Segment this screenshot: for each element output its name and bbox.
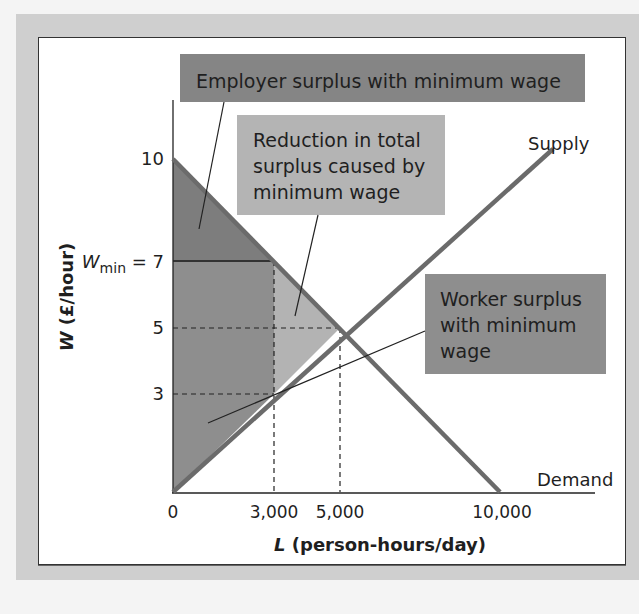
- x-tick-3000: 3,000: [250, 502, 299, 522]
- worker-label-line2: with minimum: [440, 314, 577, 336]
- worker-label-line1: Worker surplus: [440, 288, 582, 310]
- demand-label: Demand: [537, 469, 613, 490]
- y-tick-wmin: Wmin = 7: [82, 251, 164, 276]
- y-tick-5: 5: [153, 317, 164, 338]
- x-tick-10000: 10,000: [472, 502, 531, 522]
- x-tick-0: 0: [168, 502, 179, 522]
- worker-surplus-region: [173, 261, 274, 492]
- x-axis-title: L (person-hours/day): [274, 534, 486, 555]
- y-tick-3: 3: [153, 383, 164, 404]
- supply-label: Supply: [528, 133, 590, 154]
- x-tick-5000: 5,000: [316, 502, 365, 522]
- chart-svg: Employer surplus with minimum wage Reduc…: [0, 0, 639, 614]
- y-axis-title: W (£/hour): [56, 243, 77, 352]
- employer-surplus-label: Employer surplus with minimum wage: [196, 70, 561, 92]
- y-tick-10: 10: [141, 148, 164, 169]
- reduction-label-line3: minimum wage: [253, 181, 400, 203]
- reduction-label-line1: Reduction in total: [253, 129, 421, 151]
- reduction-label-line2: surplus caused by: [253, 155, 425, 177]
- worker-label-line3: wage: [440, 340, 491, 362]
